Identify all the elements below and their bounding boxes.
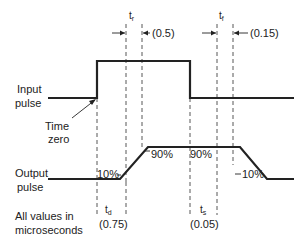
td-symbol: td <box>105 204 112 216</box>
rise-high-level-label: 90% <box>151 148 173 160</box>
input-pulse-label-line1: Input <box>17 83 41 95</box>
tr-arrows <box>112 31 150 36</box>
input-pulse-waveform <box>48 61 294 98</box>
fall-high-level-label: 90% <box>190 148 212 160</box>
fall-low-level-label: 10% <box>242 168 264 180</box>
td-value: (0.75) <box>99 218 128 230</box>
units-note-line2: microseconds <box>15 224 83 236</box>
ts-value: (0.05) <box>190 218 219 230</box>
rise-low-level-label: 10% <box>97 168 119 180</box>
tf-symbol: tf <box>219 10 224 22</box>
output-pulse-label-line2: pulse <box>17 181 43 193</box>
tr-symbol: tr <box>129 10 135 22</box>
output-pulse-label-line1: Output <box>15 167 48 179</box>
time-zero-label-line1: Time <box>45 120 69 132</box>
reference-lines <box>97 24 233 215</box>
pulse-timing-diagram: tr (0.5) tf (0.15) Input pulse Time zero… <box>0 0 308 242</box>
input-pulse-label-line2: pulse <box>15 97 41 109</box>
tr-value: (0.5) <box>152 27 175 39</box>
ts-symbol: ts <box>200 204 207 216</box>
tf-arrows <box>202 31 248 36</box>
units-note-line1: All values in <box>15 210 74 222</box>
time-zero-arrow <box>72 99 96 118</box>
time-zero-label-line2: zero <box>48 133 69 145</box>
tf-value: (0.15) <box>250 27 279 39</box>
